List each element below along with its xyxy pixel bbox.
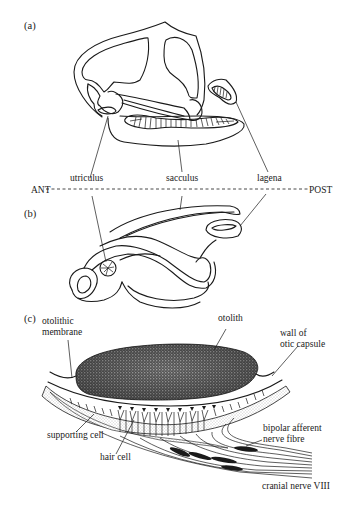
- label-otolith: otolith: [218, 313, 243, 323]
- label-wall-1: wall of: [280, 328, 307, 338]
- axis-label-post: POST: [309, 185, 332, 195]
- axis-label-ant: ANT: [31, 185, 51, 195]
- leader-otolithic-membrane: [68, 340, 72, 378]
- label-supporting-cell: supporting cell: [47, 430, 104, 440]
- leader-lagena-b: [240, 194, 266, 226]
- leader-wall: [272, 346, 298, 376]
- panel-label-a: (a): [24, 20, 36, 31]
- label-otolithic-membrane-1: otolithic: [42, 316, 74, 326]
- label-sacculus: sacculus: [166, 173, 198, 183]
- label-bipolar-1: bipolar afferent: [263, 423, 322, 433]
- label-hair-cell: hair cell: [100, 452, 131, 462]
- label-utriculus: utriculus: [70, 173, 103, 183]
- leader-sacculus-a: [178, 140, 182, 172]
- label-otolithic-membrane-2: membrane: [42, 327, 82, 337]
- label-wall-2: otic capsule: [280, 339, 325, 349]
- label-cranial-nerve: cranial nerve VIII: [262, 481, 330, 491]
- panel-c-macula-section: [42, 329, 312, 478]
- label-bipolar-2: nerve fibre: [263, 434, 304, 444]
- leader-utriculus-a: [90, 116, 108, 178]
- leader-bipolar-fibre: [246, 440, 262, 446]
- panel-label-b: (b): [24, 208, 36, 219]
- panel-b-labyrinth: [70, 194, 266, 308]
- panel-label-c: (c): [24, 313, 36, 324]
- label-lagena: lagena: [257, 173, 282, 183]
- leader-lagena-a: [236, 102, 268, 172]
- panel-a-labyrinth: [74, 22, 268, 178]
